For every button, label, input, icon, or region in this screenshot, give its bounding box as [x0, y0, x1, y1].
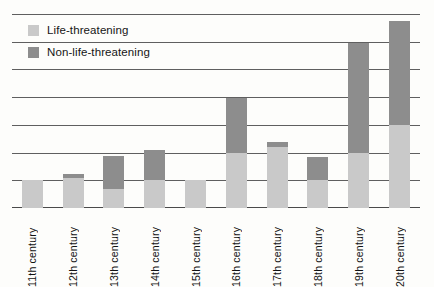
bar-19th-century[interactable] [348, 43, 369, 208]
chart-legend: Life-threatening Non-life-threatening [28, 19, 150, 63]
x-tick-label: 17th century [271, 212, 283, 287]
x-axis-labels: 11th century 12th century 13th century 1… [12, 210, 420, 287]
x-tick-label: 11th century [26, 212, 38, 287]
x-tick-label: 13th century [108, 212, 120, 287]
stacked-bar-chart: Life-threatening Non-life-threatening 11… [0, 0, 434, 287]
bar-segment-life-threatening [226, 153, 247, 208]
x-tick-label: 20th century [394, 212, 406, 287]
x-tick-slot: 11th century [12, 210, 53, 287]
bar-segment-non-life-threatening [348, 43, 369, 153]
bar-segment-life-threatening [63, 178, 84, 208]
bar-16th-century[interactable] [226, 98, 247, 208]
x-tick-slot: 19th century [338, 210, 379, 287]
bar-14th-century[interactable] [144, 150, 165, 208]
x-tick-slot: 15th century [175, 210, 216, 287]
x-tick-label: 15th century [190, 212, 202, 287]
bar-slot-15th-century [175, 14, 216, 208]
bar-segment-life-threatening [185, 180, 206, 208]
x-tick-slot: 13th century [94, 210, 135, 287]
bar-segment-life-threatening [22, 180, 43, 208]
bar-20th-century[interactable] [389, 21, 410, 208]
legend-item-life-threatening[interactable]: Life-threatening [28, 19, 150, 41]
bar-slot-17th-century [257, 14, 298, 208]
bar-13th-century[interactable] [103, 156, 124, 208]
bar-segment-non-life-threatening [307, 157, 328, 180]
bar-segment-life-threatening [307, 180, 328, 208]
bar-segment-non-life-threatening [389, 21, 410, 126]
legend-item-non-life-threatening[interactable]: Non-life-threatening [28, 41, 150, 63]
bar-segment-life-threatening [267, 147, 288, 208]
bar-segment-life-threatening [389, 125, 410, 208]
bar-slot-18th-century [298, 14, 339, 208]
x-tick-label: 18th century [312, 212, 324, 287]
bar-segment-life-threatening [144, 180, 165, 208]
bar-segment-life-threatening [103, 189, 124, 208]
x-tick-slot: 17th century [257, 210, 298, 287]
legend-swatch-icon [28, 25, 39, 36]
bar-12th-century[interactable] [63, 174, 84, 208]
legend-label: Non-life-threatening [47, 46, 150, 58]
x-tick-slot: 18th century [298, 210, 339, 287]
bar-slot-19th-century [338, 14, 379, 208]
bar-slot-20th-century [379, 14, 420, 208]
x-tick-label: 16th century [230, 212, 242, 287]
legend-label: Life-threatening [47, 24, 129, 36]
legend-swatch-icon [28, 47, 39, 58]
x-tick-slot: 16th century [216, 210, 257, 287]
bar-11th-century[interactable] [22, 180, 43, 208]
x-tick-slot: 12th century [53, 210, 94, 287]
bar-15th-century[interactable] [185, 180, 206, 208]
bar-segment-non-life-threatening [144, 150, 165, 180]
bar-segment-non-life-threatening [226, 98, 247, 153]
bar-18th-century[interactable] [307, 157, 328, 208]
x-tick-label: 19th century [353, 212, 365, 287]
x-tick-slot: 20th century [379, 210, 420, 287]
bar-segment-life-threatening [348, 153, 369, 208]
bar-17th-century[interactable] [267, 142, 288, 208]
bar-segment-non-life-threatening [103, 156, 124, 189]
x-tick-label: 12th century [67, 212, 79, 287]
bar-slot-16th-century [216, 14, 257, 208]
x-tick-label: 14th century [149, 212, 161, 287]
x-tick-slot: 14th century [134, 210, 175, 287]
